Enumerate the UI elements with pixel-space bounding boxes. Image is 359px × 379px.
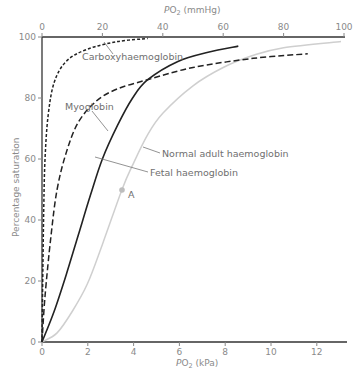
- oxygen-dissociation-chart: 020406080100020406080100024681012 PO2 (m…: [0, 0, 359, 379]
- top-tick-label: 40: [157, 22, 169, 32]
- fetal-label: Fetal haemoglobin: [150, 167, 238, 178]
- bottom-tick-label: 4: [131, 347, 137, 357]
- y-tick-label: 20: [25, 276, 37, 286]
- top-tick-label: 80: [278, 22, 290, 32]
- normal-adult-haemoglobin-curve: [42, 42, 341, 342]
- axes: [42, 37, 347, 342]
- normal-adult-label: Normal adult haemoglobin: [162, 148, 289, 159]
- top-tick-label: 0: [39, 22, 45, 32]
- point-a-marker: [119, 187, 125, 193]
- fetal-leader: [95, 157, 148, 172]
- y-tick-label: 60: [25, 154, 37, 164]
- top-tick-label: 20: [97, 22, 109, 32]
- bottom-tick-label: 6: [177, 347, 183, 357]
- y-tick-label: 40: [25, 215, 37, 225]
- myoglobin-curve: [42, 54, 308, 342]
- myoglobin-label: Myoglobin: [65, 101, 114, 112]
- y-tick-label: 100: [19, 32, 36, 42]
- bottom-tick-label: 0: [39, 347, 45, 357]
- myoglobin-leader: [92, 111, 108, 131]
- bottom-axis-title: PO2 (kPa): [176, 358, 218, 370]
- top-tick-label: 100: [335, 22, 352, 32]
- bottom-tick-label: 8: [222, 347, 228, 357]
- carboxyhaemoglobin-label: Carboxyhaemoglobin: [82, 51, 183, 62]
- bottom-tick-label: 2: [85, 347, 91, 357]
- y-tick-label: 80: [25, 93, 37, 103]
- top-tick-label: 60: [217, 22, 229, 32]
- top-axis-title: PO2 (mmHg): [164, 5, 221, 17]
- y-tick-label: 0: [30, 337, 36, 347]
- fetal-haemoglobin-curve: [42, 46, 238, 342]
- normal-leader: [143, 147, 160, 153]
- y-axis-title: Percentage saturation: [11, 138, 21, 237]
- point-a-label: A: [128, 189, 135, 200]
- ticks: 020406080100020406080100024681012: [19, 22, 353, 357]
- bottom-tick-label: 12: [311, 347, 322, 357]
- bottom-tick-label: 10: [265, 347, 277, 357]
- curves: [42, 39, 341, 342]
